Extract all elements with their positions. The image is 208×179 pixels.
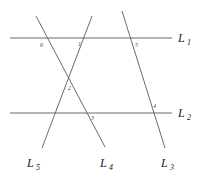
geometry-figure: 6 1 5 2 3 4 L 1 L 2 L 3 L 4 L 5 xyxy=(0,0,208,179)
angle-label-6: 6 xyxy=(40,42,43,48)
line-label-l1: L 1 xyxy=(177,31,191,47)
geometry-diagram-canvas: 6 1 5 2 3 4 L 1 L 2 L 3 L 4 L 5 xyxy=(0,0,208,179)
line-label-l5-sub: 5 xyxy=(36,163,40,172)
line-l3-stroke xyxy=(122,11,165,148)
angle-label-5: 5 xyxy=(135,42,138,48)
line-label-l2-sub: 2 xyxy=(187,113,191,122)
line-label-l5-base: L xyxy=(26,156,34,170)
line-label-l4-base: L xyxy=(99,156,107,170)
line-label-l1-sub: 1 xyxy=(187,38,191,47)
line-l5-stroke xyxy=(42,16,92,148)
line-label-l2-base: L xyxy=(177,106,185,120)
line-label-l4-sub: 4 xyxy=(109,163,113,172)
line-label-l2: L 2 xyxy=(177,106,191,122)
line-label-l4: L 4 xyxy=(99,156,113,172)
line-label-l5: L 5 xyxy=(26,156,40,172)
line-label-l3: L 3 xyxy=(160,156,174,172)
line-label-l3-base: L xyxy=(160,156,168,170)
angle-label-4: 4 xyxy=(153,103,156,109)
line-label-l1-base: L xyxy=(177,31,185,45)
line-label-l3-sub: 3 xyxy=(169,163,174,172)
line-l4-stroke xyxy=(36,16,105,147)
angle-label-2: 2 xyxy=(68,85,71,91)
angle-label-1: 1 xyxy=(78,41,81,47)
angle-label-3: 3 xyxy=(90,115,94,121)
